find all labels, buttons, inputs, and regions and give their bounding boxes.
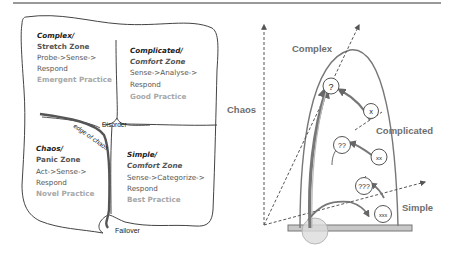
- quadrant-title: Simple/: [127, 150, 159, 159]
- quadrant-title: Chaos/: [36, 144, 64, 153]
- label-complex: Complex: [292, 43, 333, 54]
- label-complicated: Complicated: [376, 125, 433, 136]
- quadrant-complicated: Complicated/ Comfort Zone Sense->Analyse…: [130, 46, 197, 101]
- node-x1: x: [364, 104, 379, 119]
- quadrant-zone: Panic Zone: [36, 155, 81, 164]
- failover-label: Failover: [115, 227, 141, 234]
- svg-text:x: x: [369, 107, 373, 116]
- quadrant-practice: Best Practice: [127, 195, 181, 204]
- quadrant-steps-2: Respond: [37, 64, 68, 73]
- node-q3: ???: [356, 178, 373, 195]
- complexity-model: ? x ?? xx ??? xxx Complex Chaos Complica…: [227, 25, 433, 244]
- cynefin-figure: Complex/ Stretch Zone Probe->Sense-> Res…: [0, 0, 454, 255]
- quadrant-steps-2: Respond: [127, 184, 158, 193]
- node-x2: xx: [371, 149, 387, 165]
- label-simple: Simple: [402, 202, 433, 213]
- svg-text:?: ?: [328, 82, 333, 92]
- node-x3: xxx: [375, 206, 392, 223]
- quadrant-chaos: Chaos/ Panic Zone Act->Sense-> Respond N…: [36, 144, 95, 198]
- quadrant-zone: Comfort Zone: [127, 161, 183, 170]
- quadrant-complex: Complex/ Stretch Zone Probe->Sense-> Res…: [37, 31, 112, 84]
- cynefin-sketch: Complex/ Stretch Zone Probe->Sense-> Res…: [21, 16, 218, 234]
- quadrant-title: Complex/: [37, 31, 76, 40]
- axis-simple: [264, 182, 425, 225]
- quadrant-steps: Sense->Analyse->: [130, 68, 197, 77]
- quadrant-zone: Comfort Zone: [130, 57, 186, 66]
- disorder-label: Disorder: [102, 121, 127, 128]
- svg-text:??: ??: [338, 142, 346, 149]
- origin-highlight: [302, 218, 328, 244]
- quadrant-steps-2: Respond: [130, 80, 161, 89]
- quadrant-simple: Simple/ Comfort Zone Sense->Categorize->…: [127, 150, 205, 204]
- divider-lower: [111, 125, 112, 214]
- quadrant-steps: Sense->Categorize->: [127, 173, 205, 182]
- quadrant-steps-2: Respond: [36, 178, 67, 187]
- node-q2: ??: [334, 137, 351, 154]
- quadrant-steps: Probe->Sense->: [37, 53, 96, 62]
- label-chaos: Chaos: [227, 104, 256, 115]
- svg-text:???: ???: [358, 183, 370, 190]
- quadrant-practice: Emergent Practice: [37, 75, 112, 84]
- quadrant-zone: Stretch Zone: [37, 42, 90, 51]
- svg-text:xxx: xxx: [379, 212, 388, 218]
- quadrant-steps: Act->Sense->: [36, 167, 87, 176]
- quadrant-practice: Novel Practice: [36, 189, 95, 198]
- quadrant-title: Complicated/: [130, 46, 184, 55]
- svg-text:xx: xx: [376, 155, 382, 161]
- quadrant-practice: Good Practice: [130, 92, 187, 101]
- node-q1: ?: [323, 78, 339, 94]
